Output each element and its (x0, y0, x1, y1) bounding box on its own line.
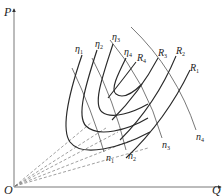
eta3-label: η3 (112, 31, 120, 43)
n3-label: n3 (162, 139, 170, 151)
n2-label: n2 (128, 150, 136, 162)
speed-line-n2 (92, 58, 126, 150)
r1-label: R1 (189, 62, 199, 74)
n1-label: n1 (106, 152, 114, 164)
r2-label: R2 (175, 45, 185, 57)
eta2-label: η2 (95, 38, 103, 50)
efficiency-curve-eta1 (66, 55, 150, 150)
origin-label: O (4, 183, 13, 196)
resistance-labels: R4 R3 R2 R1 (136, 45, 199, 74)
eta4-label: η4 (124, 46, 132, 58)
dashed-ray-1 (15, 122, 92, 186)
pump-characteristic-diagram: P Q O η1 η2 η3 η4 R4 R3 R2 R1 n1 n2 n3 n… (0, 0, 224, 196)
r3-label: R3 (157, 47, 167, 59)
dashed-ray-3 (15, 132, 118, 186)
efficiency-labels: η1 η2 η3 η4 (75, 31, 132, 58)
x-axis-label: Q (212, 183, 221, 196)
y-axis-label: P (3, 5, 12, 19)
dashed-ray-2 (15, 128, 106, 186)
speed-labels: n1 n2 n3 n4 (106, 131, 204, 164)
axes (14, 9, 221, 187)
resistance-curve-r1 (126, 70, 190, 158)
n4-label: n4 (196, 131, 204, 143)
eta1-label: η1 (75, 43, 83, 55)
resistance-curves (108, 56, 190, 158)
r4-label: R4 (136, 52, 146, 64)
